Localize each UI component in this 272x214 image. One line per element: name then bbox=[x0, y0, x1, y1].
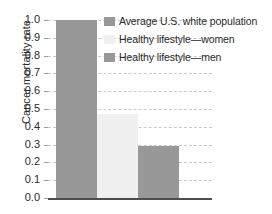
y-axis-tick-label: 0.3 bbox=[0, 138, 40, 150]
y-axis-tick-label: 0.0 bbox=[0, 191, 40, 203]
y-axis-tick-label: 1.0 bbox=[0, 13, 40, 25]
y-axis-tick-label: 0.9 bbox=[0, 31, 40, 43]
y-axis-tick-label: 0.4 bbox=[0, 120, 40, 132]
legend-swatch-icon bbox=[104, 53, 115, 62]
y-axis-tick-label: 0.7 bbox=[0, 66, 40, 78]
legend-item: Average U.S. white population bbox=[104, 13, 270, 29]
legend-label: Healthy lifestyle—women bbox=[119, 33, 235, 45]
legend-swatch-icon bbox=[104, 17, 115, 26]
cancer-mortality-bar-chart: Cancer mortality rate 1.00.90.80.70.60.5… bbox=[0, 0, 272, 214]
y-axis-tick-label: 0.5 bbox=[0, 102, 40, 114]
legend-label: Healthy lifestyle—men bbox=[119, 51, 221, 63]
bar bbox=[97, 114, 138, 198]
bar bbox=[56, 20, 97, 198]
y-axis-tick-label: 0.8 bbox=[0, 49, 40, 61]
legend-label: Average U.S. white population bbox=[119, 15, 257, 27]
chart-legend: Average U.S. white populationHealthy lif… bbox=[104, 13, 270, 67]
y-axis-tick-label: 0.6 bbox=[0, 84, 40, 96]
bar bbox=[138, 146, 179, 199]
y-axis-tick-label: 0.1 bbox=[0, 173, 40, 185]
y-axis-tick-label: 0.2 bbox=[0, 155, 40, 167]
x-axis-baseline bbox=[48, 198, 212, 200]
legend-swatch-icon bbox=[104, 35, 115, 44]
legend-item: Healthy lifestyle—women bbox=[104, 31, 270, 47]
legend-item: Healthy lifestyle—men bbox=[104, 49, 270, 65]
